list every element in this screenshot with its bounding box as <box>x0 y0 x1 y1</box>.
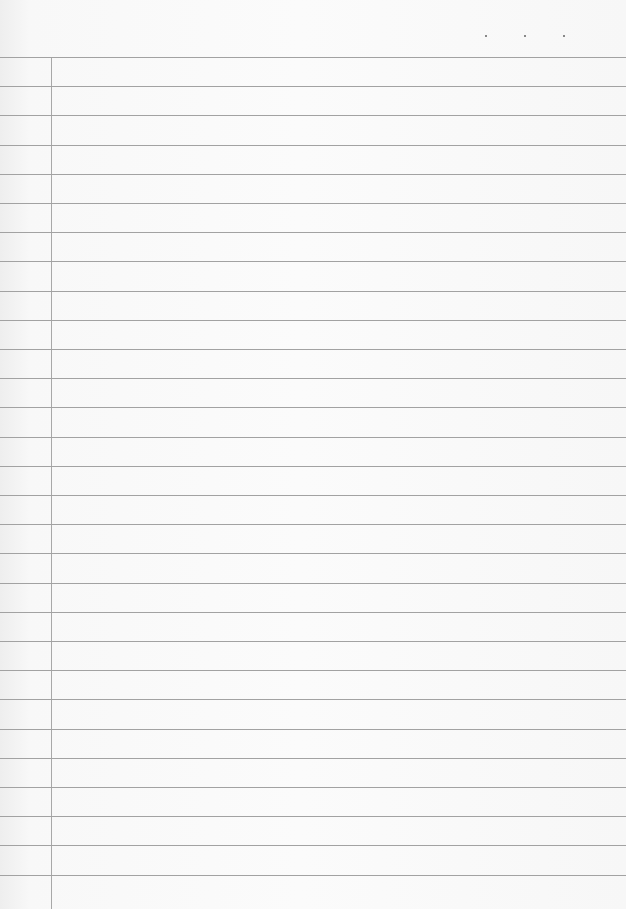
ruled-line <box>0 115 626 116</box>
ruled-line <box>0 320 626 321</box>
ruled-line <box>0 86 626 87</box>
ruled-line <box>0 261 626 262</box>
ruled-line <box>0 612 626 613</box>
header-dot <box>485 35 487 37</box>
ruled-line <box>0 670 626 671</box>
lined-paper <box>0 0 626 909</box>
ruled-line <box>0 641 626 642</box>
ruled-line <box>0 524 626 525</box>
ruled-line <box>0 553 626 554</box>
ruled-line <box>0 407 626 408</box>
ruled-line <box>0 495 626 496</box>
header-dot <box>563 35 565 37</box>
ruled-line <box>0 145 626 146</box>
ruled-line <box>0 291 626 292</box>
ruled-line <box>0 699 626 700</box>
ruled-line <box>0 378 626 379</box>
ruled-line <box>0 845 626 846</box>
ruled-line <box>0 203 626 204</box>
header-dot <box>524 35 526 37</box>
ruled-line <box>0 57 626 58</box>
ruled-line <box>0 349 626 350</box>
ruled-line <box>0 437 626 438</box>
ruled-line <box>0 232 626 233</box>
ruled-line <box>0 875 626 876</box>
ruled-line <box>0 787 626 788</box>
ruled-line <box>0 816 626 817</box>
ruled-line <box>0 729 626 730</box>
ruled-line <box>0 466 626 467</box>
ruled-line <box>0 583 626 584</box>
ruled-line <box>0 758 626 759</box>
ruled-line <box>0 174 626 175</box>
margin-line <box>51 57 52 909</box>
